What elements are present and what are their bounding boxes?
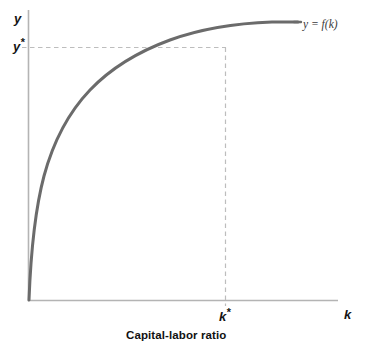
x-axis-caption: Capital-labor ratio [126, 330, 226, 342]
y-star-tick-label: y* [13, 40, 25, 53]
curve-equation-label: y = f(k) [303, 19, 338, 31]
k-star-tick-label: k* [219, 310, 231, 323]
production-function-chart [0, 0, 372, 349]
chart-background [0, 0, 372, 349]
x-axis-label: k [344, 308, 351, 321]
y-star-asterisk: * [20, 36, 24, 48]
y-axis-label: y [14, 12, 21, 25]
k-star-asterisk: * [226, 306, 230, 318]
